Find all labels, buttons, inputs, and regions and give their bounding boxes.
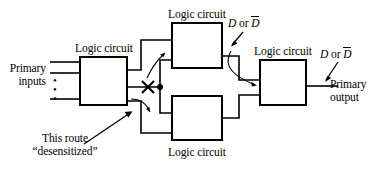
primary-output-label-line2: output xyxy=(330,91,366,104)
wire-junction-up-to-top-block xyxy=(160,60,172,87)
wire-bottom-block-to-right-block xyxy=(222,95,260,118)
pointer-arrow-d-or-dbar-top xyxy=(231,32,243,47)
vertical-ellipsis-icon: • • • xyxy=(53,76,57,103)
primary-inputs-label-line2: inputs xyxy=(2,75,46,88)
wire-left-to-bottom-block xyxy=(127,101,172,133)
logic-circuit-diagram: Primary inputs • • • Logic circuit Logic… xyxy=(0,0,378,170)
d-or-dbar-right-prefix: D xyxy=(320,48,328,60)
block-top-label: Logic circuit xyxy=(157,8,237,21)
primary-output-label-line1: Primary xyxy=(330,78,366,91)
primary-output-label: Primary output xyxy=(330,78,366,103)
d-or-dbar-right-conj: or xyxy=(331,48,340,60)
desensitized-route-label: This route “desensitized” xyxy=(10,132,120,157)
block-bottom-logic-circuit xyxy=(172,96,222,140)
primary-inputs-label-line1: Primary xyxy=(2,62,46,75)
d-or-dbar-top-suffix: D xyxy=(251,17,259,30)
block-left-label: Logic circuit xyxy=(64,42,144,55)
primary-inputs-label: Primary inputs xyxy=(2,62,46,87)
d-or-dbar-right-suffix: D xyxy=(343,48,351,61)
d-or-dbar-top-conj: or xyxy=(239,17,248,29)
d-or-dbar-top-prefix: D xyxy=(228,17,236,29)
block-right-label: Logic circuit xyxy=(243,45,323,58)
block-left-logic-circuit xyxy=(80,57,127,105)
d-or-dbar-top-label: D or D xyxy=(228,17,259,30)
wire-junction-down-to-bottom-block xyxy=(160,87,172,113)
curved-arrow-up-to-top-block xyxy=(147,53,165,78)
junction-dot xyxy=(157,84,163,90)
block-bottom-label: Logic circuit xyxy=(157,146,237,159)
d-or-dbar-right-label: D or D xyxy=(320,48,351,61)
block-right-logic-circuit xyxy=(260,60,306,105)
desensitized-route-line2: “desensitized” xyxy=(10,145,120,158)
desensitized-route-line1: This route xyxy=(10,132,120,145)
block-top-logic-circuit xyxy=(172,23,222,68)
